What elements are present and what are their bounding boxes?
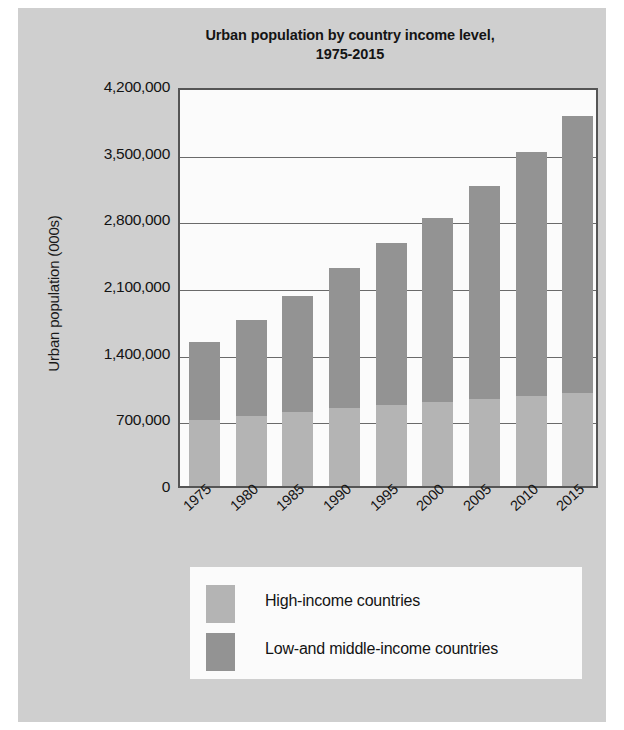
legend-swatch: [206, 585, 235, 623]
y-axis-tick-label: 0: [44, 478, 170, 496]
bar-segment-low-middle-income: [376, 243, 407, 405]
bar-1980: [236, 320, 267, 486]
bar-segment-high-income: [422, 402, 453, 486]
y-axis-tick-labels: 0700,0001,400,0002,100,0002,800,0003,500…: [44, 0, 170, 730]
chart-figure: Urban population by country income level…: [0, 0, 624, 730]
bar-2005: [469, 186, 500, 486]
legend-item: Low-and middle-income countries: [206, 629, 576, 675]
bar-segment-low-middle-income: [329, 268, 360, 408]
chart-title-line-1: Urban population by country income level…: [205, 27, 494, 43]
bar-segment-high-income: [329, 408, 360, 486]
legend-label: Low-and middle-income countries: [265, 640, 498, 658]
bar-segment-high-income: [282, 412, 313, 486]
bar-segment-high-income: [516, 396, 547, 486]
chart-legend: High-income countriesLow-and middle-inco…: [190, 567, 582, 679]
plot-inner: [180, 90, 596, 486]
y-axis-tick-label: 1,400,000: [44, 345, 170, 363]
bar-segment-high-income: [376, 405, 407, 486]
bar-1975: [189, 342, 220, 486]
bar-segment-high-income: [562, 393, 593, 486]
bar-1990: [329, 268, 360, 486]
bar-segment-high-income: [236, 416, 267, 486]
legend-label: High-income countries: [265, 592, 420, 610]
y-axis-tick-label: 2,100,000: [44, 278, 170, 296]
bar-segment-high-income: [469, 399, 500, 486]
chart-title-line-2: 1975-2015: [150, 45, 550, 64]
bar-segment-low-middle-income: [516, 152, 547, 396]
page-canvas: Urban population by country income level…: [0, 0, 624, 730]
y-axis-tick-label: 700,000: [44, 411, 170, 429]
bar-segment-low-middle-income: [282, 296, 313, 412]
bar-segment-low-middle-income: [469, 186, 500, 399]
bar-1985: [282, 296, 313, 486]
legend-item: High-income countries: [206, 581, 576, 627]
bar-2010: [516, 152, 547, 486]
y-axis-tick-label: 3,500,000: [44, 145, 170, 163]
bar-2000: [422, 218, 453, 486]
bar-segment-high-income: [189, 420, 220, 486]
y-axis-tick-label: 4,200,000: [44, 78, 170, 96]
bar-segment-low-middle-income: [562, 116, 593, 393]
chart-title: Urban population by country income level…: [150, 26, 550, 64]
y-axis-tick-label: 2,800,000: [44, 211, 170, 229]
plot-area: [178, 88, 598, 488]
bar-segment-low-middle-income: [236, 320, 267, 416]
x-axis-tick-labels: 197519801985199019952000200520102015: [178, 488, 598, 558]
bar-2015: [562, 116, 593, 486]
legend-swatch: [206, 633, 235, 671]
bar-segment-low-middle-income: [189, 342, 220, 420]
bar-1995: [376, 243, 407, 486]
bar-segment-low-middle-income: [422, 218, 453, 402]
